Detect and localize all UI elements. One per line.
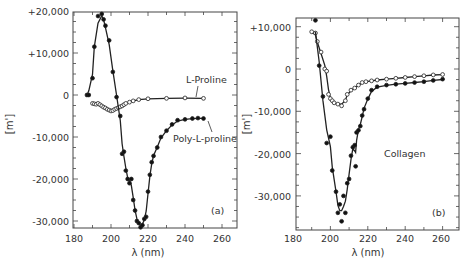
- filled-circle-marker: [137, 221, 141, 225]
- annotation-poly-l-proline: Poly-L-proline: [173, 133, 237, 144]
- filled-circle-marker: [96, 14, 100, 18]
- y-tick-label: -20,000: [32, 174, 69, 185]
- filled-circle-marker: [357, 128, 361, 132]
- y-tick-label: -10,000: [32, 132, 69, 143]
- series-line: [312, 32, 443, 104]
- x-tick-label: 180: [65, 233, 83, 244]
- filled-circle-marker: [370, 88, 374, 92]
- open-circle-marker: [128, 100, 132, 104]
- filled-circle-marker: [394, 82, 398, 86]
- filled-circle-marker: [413, 81, 417, 85]
- cd-spectra-figure: +20,000 +10,000 0 -10,000 -20,000 -30,00…: [0, 0, 468, 262]
- filled-circle-marker: [317, 64, 321, 68]
- y-tick-label: +20,000: [28, 6, 69, 17]
- open-circle-marker: [332, 101, 336, 105]
- series-line: [315, 32, 442, 211]
- open-circle-marker: [375, 78, 379, 82]
- filled-circle-marker: [403, 81, 407, 85]
- panel-a-chart: +20,000 +10,000 0 -10,000 -20,000 -30,00…: [4, 6, 237, 258]
- filled-circle-marker: [325, 141, 329, 145]
- open-circle-marker: [336, 102, 340, 106]
- x-tick-label: 240: [396, 233, 414, 244]
- filled-circle-marker: [150, 160, 154, 164]
- filled-circle-marker: [155, 146, 159, 150]
- filled-circle-marker: [366, 97, 370, 101]
- filled-circle-marker: [104, 24, 108, 28]
- filled-circle-marker: [431, 79, 435, 83]
- x-tick-label: 260: [432, 233, 450, 244]
- filled-circle-marker: [92, 45, 96, 49]
- panel-a-frame: [73, 12, 237, 228]
- annotation-collagen: Collagen: [384, 148, 425, 159]
- panel-b-label: (b): [432, 207, 445, 218]
- filled-circle-marker: [338, 202, 342, 206]
- filled-circle-marker: [321, 95, 325, 99]
- panel-b-chart: +10,000 0 -10,000 -20,000 -30,000 180 20…: [241, 18, 459, 258]
- filled-circle-marker: [176, 118, 180, 122]
- filled-circle-marker: [107, 39, 111, 43]
- open-circle-marker: [431, 73, 435, 77]
- open-circle-marker: [340, 104, 344, 108]
- filled-circle-marker: [148, 173, 152, 177]
- y-tick-label: -30,000: [32, 216, 69, 227]
- open-circle-marker: [441, 73, 445, 77]
- filled-circle-marker: [122, 150, 126, 154]
- open-circle-marker: [202, 96, 206, 100]
- filled-circle-marker: [159, 135, 163, 139]
- panel-a-x-tick-labels: 180 200 220 240 260: [65, 233, 231, 244]
- filled-circle-marker: [111, 70, 115, 74]
- x-tick-label: 200: [321, 233, 339, 244]
- filled-circle-marker: [128, 181, 132, 185]
- open-circle-marker: [385, 77, 389, 81]
- filled-circle-marker: [347, 177, 351, 181]
- open-circle-marker: [357, 83, 361, 87]
- open-circle-marker: [413, 75, 417, 79]
- filled-circle-marker: [131, 198, 135, 202]
- filled-circle-marker: [353, 143, 357, 147]
- open-circle-marker: [310, 30, 314, 34]
- filled-circle-marker: [170, 123, 174, 127]
- open-circle-marker: [146, 97, 150, 101]
- filled-circle-marker: [362, 107, 366, 111]
- open-circle-marker: [345, 92, 349, 96]
- open-circle-marker: [370, 79, 374, 83]
- filled-circle-marker: [191, 117, 195, 121]
- filled-circle-marker: [441, 77, 445, 81]
- filled-circle-marker: [342, 194, 346, 198]
- open-circle-marker: [131, 99, 135, 103]
- open-circle-marker: [165, 96, 169, 100]
- filled-circle-marker: [144, 215, 148, 219]
- filled-circle-marker: [375, 85, 379, 89]
- filled-circle-marker: [354, 164, 358, 168]
- filled-circle-marker: [202, 117, 206, 121]
- panel-a-label: (a): [211, 205, 224, 216]
- annotation-leader-line: [196, 86, 198, 97]
- open-circle-marker: [325, 69, 329, 73]
- panel-a-ticks: [73, 12, 237, 228]
- panel-b-y-tick-labels: +10,000 0 -10,000 -20,000 -30,000: [250, 22, 291, 202]
- filled-circle-marker: [115, 95, 119, 99]
- x-tick-label: 240: [176, 233, 194, 244]
- filled-circle-marker: [360, 114, 364, 118]
- filled-circle-marker: [329, 135, 333, 139]
- panel-a-y-tick-labels: +20,000 +10,000 0 -10,000 -20,000 -30,00…: [28, 6, 69, 227]
- filled-circle-marker: [91, 76, 95, 80]
- filled-circle-marker: [141, 223, 145, 227]
- panel-a-series: [85, 12, 205, 229]
- open-circle-marker: [403, 76, 407, 80]
- filled-circle-marker: [87, 93, 91, 97]
- y-tick-label: 0: [63, 90, 69, 101]
- filled-circle-marker: [345, 181, 349, 185]
- filled-circle-marker: [340, 219, 344, 223]
- annotation-leader-line: [208, 121, 212, 132]
- panel-b-x-axis-title: λ (nm): [352, 247, 385, 258]
- filled-circle-marker: [100, 12, 104, 16]
- open-circle-marker: [319, 50, 323, 54]
- x-tick-label: 180: [284, 233, 302, 244]
- filled-circle-marker: [118, 114, 122, 118]
- panel-b-series: [310, 18, 445, 223]
- x-tick-label: 200: [102, 233, 120, 244]
- open-circle-marker: [124, 102, 128, 106]
- x-tick-label: 260: [213, 233, 231, 244]
- open-circle-marker: [183, 96, 187, 100]
